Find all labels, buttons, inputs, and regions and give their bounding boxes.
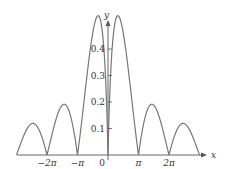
y-tick-label: 0.3 [91, 71, 106, 81]
x-axis-arrow-icon [201, 153, 207, 158]
x-tick-label: −π [71, 158, 86, 168]
x-tick-label: 2π [162, 158, 176, 168]
x-axis-label: x [211, 150, 216, 160]
x-tick-label: −2π [37, 158, 57, 168]
x-tick-label: π [135, 158, 143, 168]
y-axis-arrow-icon [106, 20, 111, 26]
chart: −2π−π0π2π0.10.20.30.4 x y [0, 0, 226, 169]
axes [17, 20, 207, 160]
x-tick-label: 0 [99, 158, 105, 168]
y-axis-label: y [103, 10, 110, 20]
y-tick-label: 0.1 [91, 124, 105, 134]
y-tick-label: 0.2 [91, 97, 105, 107]
y-tick-label: 0.4 [91, 44, 106, 54]
